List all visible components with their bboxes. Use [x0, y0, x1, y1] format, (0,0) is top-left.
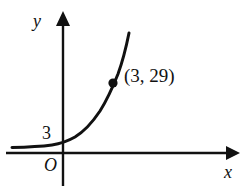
x-axis-label: x: [224, 163, 232, 181]
arrow-right-icon: [226, 146, 240, 160]
exponential-curve: [12, 33, 129, 148]
marked-point-label: (3, 29): [124, 66, 175, 85]
y-intercept-label: 3: [42, 124, 51, 142]
filled-dot-icon: [108, 78, 117, 87]
arrow-up-icon: [56, 11, 70, 26]
y-axis-label: y: [33, 12, 41, 30]
graph-figure: y x O 3 (3, 29): [0, 0, 251, 186]
origin-label: O: [44, 156, 57, 174]
